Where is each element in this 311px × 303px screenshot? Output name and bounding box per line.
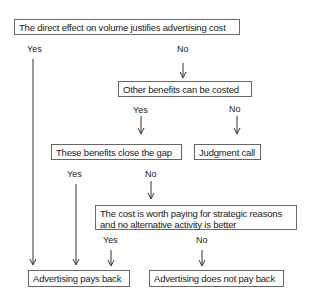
node-text: Advertising pays back (33, 273, 121, 284)
label-yes: Yes (67, 169, 82, 179)
outcome-pays-back: Advertising pays back (28, 270, 130, 287)
label-no: No (177, 44, 189, 54)
node-text-line2: and no alternative activity is better (100, 219, 292, 230)
node-text: The direct effect on volume justifies ad… (19, 22, 226, 33)
label-yes: Yes (27, 44, 42, 54)
decision-direct-effect: The direct effect on volume justifies ad… (14, 19, 240, 35)
decision-close-gap: These benefits close the gap (51, 144, 182, 160)
node-text: Advertising does not pay back (154, 273, 275, 284)
node-text: Judgment call (199, 147, 255, 158)
label-yes: Yes (133, 105, 148, 115)
label-yes: Yes (103, 235, 118, 245)
outcome-judgment-call: Judgment call (194, 144, 261, 160)
label-no: No (229, 104, 241, 114)
label-no: No (145, 169, 157, 179)
decision-other-benefits: Other benefits can be costed (118, 81, 252, 97)
node-text-line1: The cost is worth paying for strategic r… (100, 208, 292, 219)
node-text: Other benefits can be costed (123, 84, 239, 95)
outcome-does-not-pay-back: Advertising does not pay back (149, 270, 284, 287)
node-text: These benefits close the gap (56, 147, 172, 158)
decision-strategic-reasons: The cost is worth paying for strategic r… (95, 205, 297, 230)
label-no: No (196, 235, 208, 245)
